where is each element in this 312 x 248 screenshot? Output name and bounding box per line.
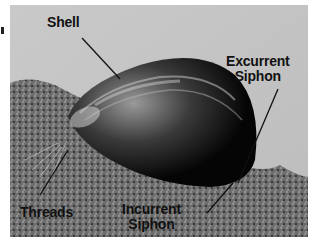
label-shell: Shell [47, 15, 79, 30]
label-excurrent-siphon: Excurrent Siphon [226, 54, 290, 84]
label-threads: Threads [20, 205, 73, 220]
mussel-photo: Shell Excurrent Siphon Threads Incurrent… [10, 5, 308, 237]
label-incurrent-siphon: Incurrent Siphon [122, 202, 181, 232]
edge-mark [1, 27, 4, 34]
